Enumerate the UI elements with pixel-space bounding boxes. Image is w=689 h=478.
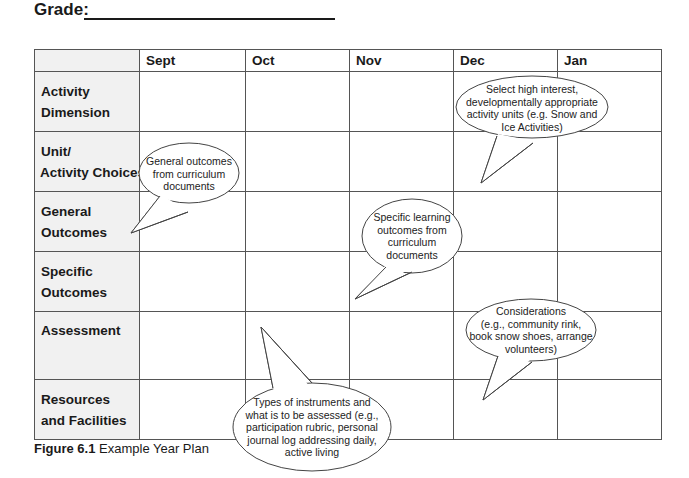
table-cell[interactable] — [558, 192, 662, 252]
table-cell[interactable] — [246, 132, 350, 192]
table-cell[interactable] — [454, 252, 558, 312]
table-cell[interactable] — [246, 252, 350, 312]
table-cell[interactable] — [350, 132, 454, 192]
column-header-sept: Sept — [140, 50, 246, 72]
callout-line: participation rubric, personal — [234, 421, 390, 434]
callout-line: volunteers) — [466, 343, 596, 356]
table-cell[interactable] — [350, 312, 454, 380]
column-header-jan: Jan — [558, 50, 662, 72]
row-header: General Outcomes — [35, 192, 140, 252]
figure-caption: Figure 6.1 Example Year Plan — [34, 441, 209, 456]
callout-line: Select high interest, — [457, 83, 607, 96]
table-row-specific-outcomes: Specific Outcomes — [35, 252, 662, 312]
row-label-line1: Specific — [41, 261, 133, 282]
row-label-line1: Assessment — [41, 320, 133, 341]
table-header-row: Sept Oct Nov Dec Jan — [35, 50, 662, 72]
column-header-oct: Oct — [246, 50, 350, 72]
figure-title: Example Year Plan — [95, 441, 208, 456]
column-header-nov: Nov — [350, 50, 454, 72]
row-label-line2: Outcomes — [41, 282, 133, 303]
callout-line: outcomes from — [362, 224, 462, 237]
callout-text-resources: Considerations (e.g., community rink, bo… — [466, 305, 596, 355]
table-cell[interactable] — [246, 72, 350, 132]
callout-text-general-outcomes: General outcomes from curriculum documen… — [141, 155, 237, 193]
row-label-line2: Activity Choices — [40, 162, 133, 183]
row-label-line2: and Facilities — [41, 410, 133, 431]
callout-line: Considerations — [466, 305, 596, 318]
row-header: Activity Dimension — [35, 72, 140, 132]
callout-text-specific-outcomes: Specific learning outcomes from curricul… — [362, 211, 462, 261]
grade-blank-line — [84, 18, 335, 20]
table-cell[interactable] — [140, 192, 246, 252]
callout-line: active living — [234, 446, 390, 459]
callout-text-assessment: Types of instruments and what is to be a… — [234, 396, 390, 459]
table-cell[interactable] — [454, 192, 558, 252]
row-header: Resources and Facilities — [35, 380, 140, 440]
row-label-line1: General — [41, 201, 133, 222]
row-header: Specific Outcomes — [35, 252, 140, 312]
row-label-line2: Dimension — [41, 102, 133, 123]
callout-line: activity units (e.g. Snow and — [457, 108, 607, 121]
table-cell[interactable] — [246, 312, 350, 380]
column-header-dec: Dec — [454, 50, 558, 72]
callout-line: book snow shoes, arrange — [466, 330, 596, 343]
callout-text-unit-choices: Select high interest, developmentally ap… — [457, 83, 607, 133]
table-cell[interactable] — [454, 380, 558, 440]
table-cell[interactable] — [558, 132, 662, 192]
callout-line: journal log addressing daily, — [234, 434, 390, 447]
grade-label: Grade: — [34, 0, 89, 20]
callout-line: Specific learning — [362, 211, 462, 224]
callout-line: documents — [141, 180, 237, 193]
table-cell[interactable] — [140, 312, 246, 380]
table-row-general-outcomes: General Outcomes — [35, 192, 662, 252]
callout-line: curriculum — [362, 236, 462, 249]
table-cell[interactable] — [246, 192, 350, 252]
figure-label: Figure 6.1 — [34, 441, 95, 456]
callout-line: from curriculum — [141, 168, 237, 181]
row-header: Assessment — [35, 312, 140, 380]
row-label-line2: Outcomes — [41, 222, 133, 243]
row-label-line1: Activity — [41, 81, 133, 102]
table-cell[interactable] — [558, 380, 662, 440]
table-cell[interactable] — [140, 380, 246, 440]
table-row-unit-activity-choices: Unit/ Activity Choices — [35, 132, 662, 192]
table-cell[interactable] — [558, 252, 662, 312]
table-cell[interactable] — [140, 72, 246, 132]
callout-line: Types of instruments and — [234, 396, 390, 409]
callout-line: Ice Activities) — [457, 121, 607, 134]
callout-line: documents — [362, 249, 462, 262]
table-cell[interactable] — [454, 132, 558, 192]
row-label-line1: Resources — [41, 389, 133, 410]
callout-line: General outcomes — [141, 155, 237, 168]
row-label-line1: Unit/ — [41, 141, 133, 162]
callout-line: (e.g., community rink, — [466, 318, 596, 331]
table-cell[interactable] — [140, 252, 246, 312]
table-cell[interactable] — [350, 72, 454, 132]
row-header: Unit/ Activity Choices — [35, 132, 140, 192]
callout-line: developmentally appropriate — [457, 96, 607, 109]
callout-line: what is to be assessed (e.g., — [234, 409, 390, 422]
corner-cell — [35, 50, 140, 72]
